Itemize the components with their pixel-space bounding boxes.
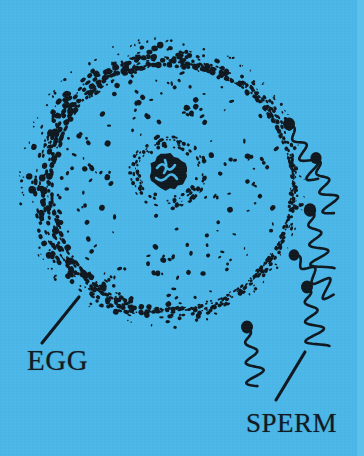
sperm-leader-line [276, 352, 305, 400]
egg-sperm-figure: EGG SPERM [0, 0, 364, 456]
egg-nucleus [128, 134, 207, 210]
egg-leader-line [42, 297, 79, 343]
sperm-2 [310, 152, 338, 213]
sperm-label: SPERM [246, 408, 337, 439]
egg-label: EGG [27, 344, 88, 377]
illustration-canvas [0, 0, 364, 456]
sperm-6 [241, 321, 264, 387]
